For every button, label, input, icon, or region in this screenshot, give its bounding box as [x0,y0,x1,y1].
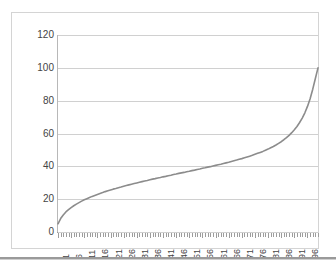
x-tick-63 [221,233,222,237]
x-tick-30 [134,233,135,237]
x-tick-81 [268,233,269,238]
y-tick-label-100: 100 [20,63,54,73]
x-tick-34 [145,233,146,237]
x-tick-69 [237,233,238,237]
x-tick-71 [242,233,243,238]
x-axis-tick-marks [58,233,318,238]
x-tick-78 [260,233,261,237]
x-tick-96 [307,233,308,238]
x-tick-87 [284,233,285,237]
x-tick-9 [79,233,80,237]
x-tick-86 [281,233,282,238]
x-tick-43 [168,233,169,237]
x-tick-14 [92,233,93,237]
x-tick-8 [76,233,77,237]
x-tick-47 [179,233,180,237]
y-tick-label-20: 20 [20,194,54,204]
x-tick-5 [69,233,70,237]
x-tick-59 [210,233,211,237]
x-tick-15 [95,233,96,237]
x-tick-40 [160,233,161,237]
x-tick-65 [226,233,227,237]
x-tick-21 [111,233,112,238]
x-tick-50 [187,233,188,237]
x-tick-60 [213,233,214,237]
x-tick-10 [82,233,83,237]
x-tick-67 [231,233,232,237]
x-tick-77 [258,233,259,237]
y-tick-label-60: 60 [20,129,54,139]
x-tick-79 [263,233,264,237]
y-tick-label-40: 40 [20,161,54,171]
x-tick-29 [132,233,133,237]
x-tick-4 [66,233,67,237]
x-tick-61 [216,233,217,238]
x-tick-74 [250,233,251,237]
x-tick-16 [97,233,98,238]
x-tick-27 [126,233,127,237]
x-tick-85 [279,233,280,237]
x-tick-72 [244,233,245,237]
x-tick-3 [63,233,64,237]
x-tick-32 [139,233,140,237]
x-tick-25 [121,233,122,237]
x-tick-99 [315,233,316,237]
x-tick-93 [300,233,301,237]
x-tick-80 [265,233,266,237]
x-tick-17 [100,233,101,237]
x-tick-64 [223,233,224,237]
x-tick-75 [252,233,253,237]
x-tick-76 [255,233,256,238]
x-tick-26 [124,233,125,238]
x-tick-36 [150,233,151,238]
x-tick-23 [116,233,117,237]
x-tick-98 [313,233,314,237]
x-tick-46 [176,233,177,238]
x-tick-37 [153,233,154,237]
x-tick-49 [184,233,185,237]
x-tick-28 [129,233,130,237]
x-tick-24 [118,233,119,237]
x-tick-95 [305,233,306,237]
x-tick-45 [174,233,175,237]
x-tick-70 [239,233,240,237]
y-tick-label-80: 80 [20,96,54,106]
x-tick-7 [74,233,75,237]
x-tick-83 [273,233,274,237]
x-tick-56 [202,233,203,238]
x-tick-94 [302,233,303,237]
x-tick-62 [218,233,219,237]
y-axis-tick-labels: 020406080100120 [16,13,54,253]
y-tick-label-120: 120 [20,30,54,40]
x-tick-100 [318,233,319,237]
chart-frame: 020406080100120 161116212631364146515661… [11,12,319,249]
x-tick-33 [142,233,143,237]
x-tick-88 [286,233,287,237]
series-1-line [58,68,318,224]
x-tick-19 [105,233,106,237]
x-tick-42 [166,233,167,237]
x-tick-20 [108,233,109,237]
x-tick-13 [90,233,91,237]
plot-area [58,35,318,232]
x-tick-68 [234,233,235,237]
x-tick-44 [171,233,172,237]
x-tick-53 [195,233,196,237]
x-tick-55 [200,233,201,237]
x-tick-1 [58,233,59,238]
x-tick-6 [71,233,72,238]
x-tick-92 [297,233,298,237]
x-tick-84 [276,233,277,237]
x-tick-73 [247,233,248,237]
x-tick-52 [192,233,193,237]
x-tick-66 [229,233,230,238]
x-tick-38 [155,233,156,237]
x-tick-91 [294,233,295,238]
x-tick-22 [113,233,114,237]
x-tick-82 [271,233,272,237]
x-tick-11 [84,233,85,238]
x-tick-58 [208,233,209,237]
series-line-chart [58,35,318,232]
x-tick-12 [87,233,88,237]
x-tick-18 [103,233,104,237]
